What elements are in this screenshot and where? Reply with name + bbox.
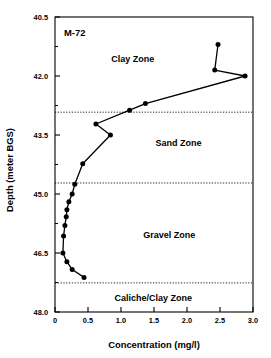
y-axis-tick-label: 46.5 xyxy=(34,249,48,258)
zone-label-gravel-zone: Gravel Zone xyxy=(143,230,195,240)
data-point xyxy=(64,207,69,212)
data-point xyxy=(64,259,69,264)
data-point xyxy=(108,133,113,138)
data-point xyxy=(60,251,65,256)
y-axis-title: Depth (meter BGS) xyxy=(4,128,15,212)
y-axis-tick-label: 43.5 xyxy=(34,131,48,140)
data-point xyxy=(70,267,75,272)
zone-label-caliche-clay-zone: Caliche/Clay Zone xyxy=(115,293,193,303)
data-point xyxy=(143,101,148,106)
data-point xyxy=(66,199,71,204)
data-point xyxy=(216,42,221,47)
y-axis-tick-label: 42.0 xyxy=(34,72,48,81)
chart-title: M-72 xyxy=(64,27,85,38)
data-point xyxy=(80,161,85,166)
depth-concentration-profile-chart: 40.542.043.545.046.548.0 00.51.01.52.02.… xyxy=(0,0,271,358)
x-axis-title: Concentration (mg/l) xyxy=(108,339,200,350)
chart-figure: 40.542.043.545.046.548.0 00.51.01.52.02.… xyxy=(0,0,271,358)
y-axis-tick-label: 45.0 xyxy=(34,190,48,199)
data-point xyxy=(64,214,69,219)
data-point xyxy=(82,275,87,280)
x-axis-tick-label: 0 xyxy=(53,316,57,325)
x-axis-tick-label: 2.5 xyxy=(215,316,225,325)
x-axis-tick-label: 2.0 xyxy=(182,316,192,325)
zone-label-sand-zone: Sand Zone xyxy=(155,138,201,148)
x-axis-tick-label: 1.0 xyxy=(116,316,126,325)
data-point xyxy=(127,108,132,113)
y-axis-tick-label: 40.5 xyxy=(34,13,48,22)
data-point xyxy=(93,121,98,126)
x-axis-tick-label: 1.5 xyxy=(149,316,159,325)
x-axis-tick-label: 0.5 xyxy=(83,316,93,325)
data-point xyxy=(72,182,77,187)
data-point xyxy=(212,68,217,73)
data-point xyxy=(62,223,67,228)
zone-label-clay-zone: Clay Zone xyxy=(111,54,154,64)
y-axis-tick-label: 48.0 xyxy=(34,308,48,317)
data-point xyxy=(61,234,66,239)
data-point xyxy=(243,74,248,79)
x-axis-tick-label: 3.0 xyxy=(248,316,258,325)
data-point xyxy=(70,192,75,197)
